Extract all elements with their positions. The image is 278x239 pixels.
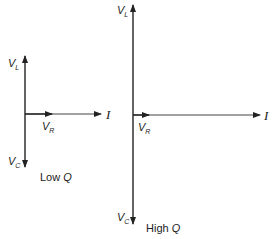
high-q-caption: High Q [146, 223, 180, 234]
low-q-phasor [25, 56, 101, 167]
low-q-vc-label: VC [8, 156, 20, 169]
high-q-i-label: I [264, 109, 268, 122]
high-q-vl-label: VL [117, 5, 128, 18]
low-q-vr-label: VR [42, 121, 54, 134]
low-q-i-label: I [106, 108, 110, 121]
high-q-vc-label: VC [117, 212, 129, 225]
low-q-caption: Low Q [40, 172, 72, 183]
high-q-vr-label: VR [138, 122, 150, 135]
low-q-vl-label: VL [8, 58, 19, 71]
high-q-phasor [133, 5, 260, 224]
